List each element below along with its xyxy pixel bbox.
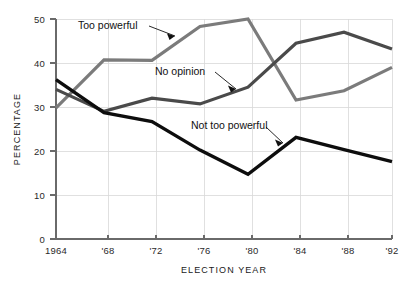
y-axis-title: PERCENTAGE — [12, 93, 22, 165]
ytick-label-30: 30 — [34, 102, 45, 113]
xtick-label-1964: 1964 — [45, 245, 67, 256]
xtick-label-80: '80 — [246, 245, 259, 256]
chart-container: 50 40 30 20 10 0 1964 '68 '72 '76 '80 '8… — [0, 0, 406, 290]
ytick-label-50: 50 — [34, 14, 45, 25]
xtick-label-76: '76 — [198, 245, 211, 256]
annotation-leader-not-too-powerful — [266, 127, 283, 143]
annotation-leader-no-opinion — [215, 72, 236, 89]
annotation-label-no-opinion: No opinion — [155, 65, 205, 77]
series-line-no-opinion — [56, 32, 392, 111]
ytick-label-10: 10 — [34, 190, 45, 201]
y-axis-tick-labels: 50 40 30 20 10 0 — [34, 14, 45, 245]
xtick-label-68: '68 — [102, 245, 115, 256]
x-axis-tick-labels: 1964 '68 '72 '76 '80 '84 '88 '92 — [45, 245, 398, 256]
xtick-label-92: '92 — [386, 245, 399, 256]
ytick-label-20: 20 — [34, 146, 45, 157]
ytick-label-0: 0 — [40, 234, 45, 245]
line-chart: 50 40 30 20 10 0 1964 '68 '72 '76 '80 '8… — [0, 0, 406, 290]
ytick-label-40: 40 — [34, 58, 45, 69]
xtick-label-72: '72 — [150, 245, 163, 256]
annotation-no-opinion: No opinion — [155, 65, 236, 93]
annotation-leader-too-powerful — [149, 26, 175, 36]
annotation-label-not-too-powerful: Not too powerful — [191, 119, 267, 131]
x-axis-title: ELECTION YEAR — [181, 265, 267, 275]
annotation-label-too-powerful: Too powerful — [78, 19, 138, 31]
xtick-label-84: '84 — [294, 245, 307, 256]
annotation-not-too-powerful: Not too powerful — [191, 119, 283, 147]
annotation-arrowhead-not-too-powerful — [275, 140, 283, 147]
xtick-label-88: '88 — [342, 245, 355, 256]
annotation-too-powerful: Too powerful — [78, 19, 175, 40]
